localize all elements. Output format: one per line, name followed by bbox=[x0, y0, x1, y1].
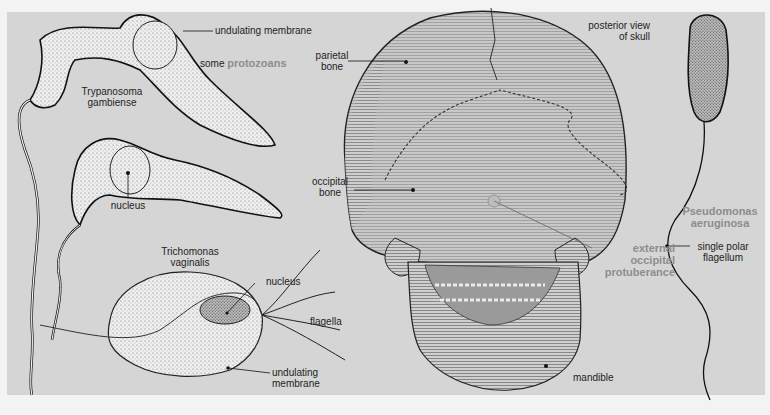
trichomonas bbox=[40, 250, 345, 376]
label-occipital-bone: occipital bone bbox=[306, 176, 354, 198]
label-undulating-membrane-trichomonas: undulating membrane bbox=[272, 367, 320, 389]
label-flagella: flagella bbox=[310, 316, 342, 327]
label-trichomonas-name: Trichomonas vaginalis bbox=[150, 246, 230, 268]
label-nucleus-trypanosoma: nucleus bbox=[110, 200, 146, 211]
label-mandible: mandible bbox=[573, 372, 614, 383]
label-trypanosoma-name: Trypanosoma gambiense bbox=[72, 86, 152, 108]
label-group-prefix: some bbox=[200, 58, 224, 69]
skull-posterior bbox=[344, 8, 626, 390]
label-nucleus-trichomonas: nucleus bbox=[266, 276, 300, 287]
label-undulating-membrane-trypanosoma: undulating membrane bbox=[215, 25, 312, 36]
label-external-occipital-protuberance: external occipital protuberance bbox=[585, 242, 675, 278]
label-single-polar-flagellum: single polar flagellum bbox=[690, 241, 756, 263]
label-group-name: protozoans bbox=[227, 57, 286, 69]
label-parietal-bone: parietal bone bbox=[312, 50, 352, 72]
label-posterior-view: posterior view of skull bbox=[570, 20, 650, 42]
label-group-title: some protozoans bbox=[200, 57, 287, 69]
label-pseudomonas-name: Pseudomonas aeruginosa bbox=[680, 205, 760, 229]
